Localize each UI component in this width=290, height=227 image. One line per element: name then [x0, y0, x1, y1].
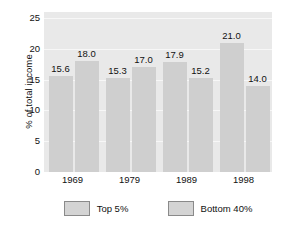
x-axis-tick-label: 1969	[48, 174, 98, 186]
y-axis-tick-label: 20	[18, 44, 40, 54]
bar-group: 15.317.0	[106, 12, 156, 172]
bar-value-label: 15.6	[44, 64, 78, 74]
bar-value-label: 18.0	[70, 49, 104, 59]
legend-label: Top 5%	[97, 203, 129, 214]
bar-group: 15.618.0	[49, 12, 99, 172]
bar-value-label: 15.2	[184, 66, 218, 76]
bar[interactable]	[132, 67, 156, 172]
bar[interactable]	[220, 43, 244, 172]
y-axis-tick-label: 0	[18, 167, 40, 177]
y-axis-tick-label: 10	[18, 105, 40, 115]
x-axis-tick-label: 1979	[105, 174, 155, 186]
y-axis-tick-label: 25	[18, 13, 40, 23]
x-axis-tick-label: 1989	[162, 174, 212, 186]
bar[interactable]	[49, 76, 73, 172]
bar-value-label: 17.0	[127, 55, 161, 65]
y-axis-tick-label: 5	[18, 136, 40, 146]
legend-item[interactable]: Bottom 40%	[168, 201, 253, 216]
legend-item[interactable]: Top 5%	[64, 201, 129, 216]
bar-value-label: 15.3	[101, 66, 135, 76]
y-axis-tick-label: 15	[18, 75, 40, 85]
bar-value-label: 21.0	[215, 31, 249, 41]
bar[interactable]	[106, 78, 130, 172]
plot-area: 15.618.015.317.017.915.221.014.0	[44, 12, 272, 172]
y-axis-tick-labels: 0510152025	[18, 12, 40, 174]
bar[interactable]	[163, 62, 187, 172]
bar[interactable]	[246, 86, 270, 172]
legend-swatch-icon	[168, 201, 194, 216]
bar-group: 17.915.2	[163, 12, 213, 172]
legend-label: Bottom 40%	[201, 203, 253, 214]
x-axis-tick-label: 1998	[219, 174, 269, 186]
chart-legend: Top 5%Bottom 40%	[44, 195, 272, 221]
bar-chart: % of total income 0510152025 15.618.015.…	[0, 0, 290, 227]
legend-swatch-icon	[64, 201, 90, 216]
bar-value-label: 17.9	[158, 50, 192, 60]
bar[interactable]	[75, 61, 99, 172]
bar-group: 21.014.0	[220, 12, 270, 172]
bar[interactable]	[189, 78, 213, 172]
bar-value-label: 14.0	[241, 74, 275, 84]
x-axis-tick-labels: 1969197919891998	[44, 174, 272, 190]
